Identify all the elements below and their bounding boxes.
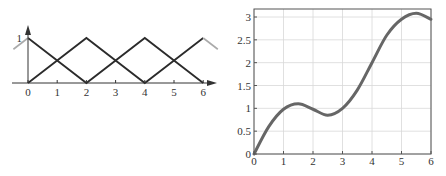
x-tick-label: 5 xyxy=(399,155,405,167)
y-tick-label: 0.5 xyxy=(237,125,251,137)
x-tick-label: 1 xyxy=(281,155,287,167)
y-tick-label: 3 xyxy=(246,11,252,23)
hat-functions-plot: 01234561 xyxy=(0,0,223,176)
series-hat-B-continuation xyxy=(203,38,218,49)
x-tick-label: 2 xyxy=(310,155,316,167)
grid xyxy=(254,9,431,154)
series-hat-B xyxy=(28,38,203,83)
y-tick-label: 0 xyxy=(246,148,252,160)
interpolated-curve-chart: 012345600.511.522.53 xyxy=(223,0,446,176)
y-tick-label: 2.5 xyxy=(237,34,251,46)
curve-plot: 012345600.511.522.53 xyxy=(223,0,446,176)
x-tick-label: 3 xyxy=(340,155,346,167)
x-tick-label: 2 xyxy=(84,86,90,98)
hat-functions-chart: 01234561 xyxy=(0,0,223,176)
y-tick-label: 1 xyxy=(17,32,23,44)
x-tick-label: 3 xyxy=(113,86,119,98)
y-tick-label: 2 xyxy=(246,57,252,69)
y-axis-arrow-icon xyxy=(25,25,31,35)
x-tick-label: 1 xyxy=(54,86,60,98)
x-tick-label: 0 xyxy=(251,155,257,167)
x-axis-arrow-icon xyxy=(207,80,217,86)
x-tick-label: 5 xyxy=(171,86,177,98)
x-tick-label: 6 xyxy=(200,86,206,98)
y-tick-label: 1.5 xyxy=(237,80,251,92)
x-tick-label: 6 xyxy=(428,155,434,167)
x-tick-label: 0 xyxy=(25,86,31,98)
x-tick-label: 4 xyxy=(369,155,375,167)
y-tick-label: 1 xyxy=(246,102,252,114)
x-tick-label: 4 xyxy=(142,86,148,98)
